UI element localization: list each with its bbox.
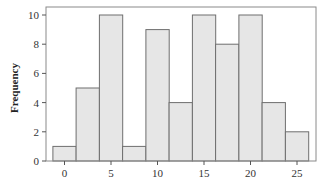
x-tick-label: 5 xyxy=(108,167,114,178)
y-tick-label: 6 xyxy=(34,67,40,79)
x-tick-label: 15 xyxy=(199,167,211,178)
x-tick-label: 20 xyxy=(245,167,257,178)
y-axis-title: Frequency xyxy=(8,63,20,113)
x-tick-label: 10 xyxy=(152,167,164,178)
y-tick-label: 2 xyxy=(34,126,40,138)
x-axis: 0510152025 xyxy=(62,161,303,178)
histogram-bar xyxy=(239,15,262,161)
histogram-bar xyxy=(76,88,99,161)
x-tick-label: 0 xyxy=(62,167,68,178)
y-tick-label: 10 xyxy=(28,9,40,21)
histogram-bar xyxy=(192,15,215,161)
y-tick-label: 8 xyxy=(34,38,40,50)
histogram-bar xyxy=(99,15,122,161)
histogram-bar xyxy=(285,132,308,161)
x-tick-label: 25 xyxy=(292,167,304,178)
histogram-bar xyxy=(169,103,192,161)
histogram-bar xyxy=(146,30,169,161)
y-axis: 0246810 xyxy=(28,9,46,167)
histogram-bars xyxy=(53,15,309,161)
y-tick-label: 4 xyxy=(34,97,40,109)
histogram-chart: 0246810 0510152025 Frequency xyxy=(0,0,331,178)
histogram-bar xyxy=(262,103,285,161)
histogram-bar xyxy=(53,146,76,161)
histogram-bar xyxy=(216,44,239,161)
y-tick-label: 0 xyxy=(34,155,40,167)
histogram-bar xyxy=(123,146,146,161)
